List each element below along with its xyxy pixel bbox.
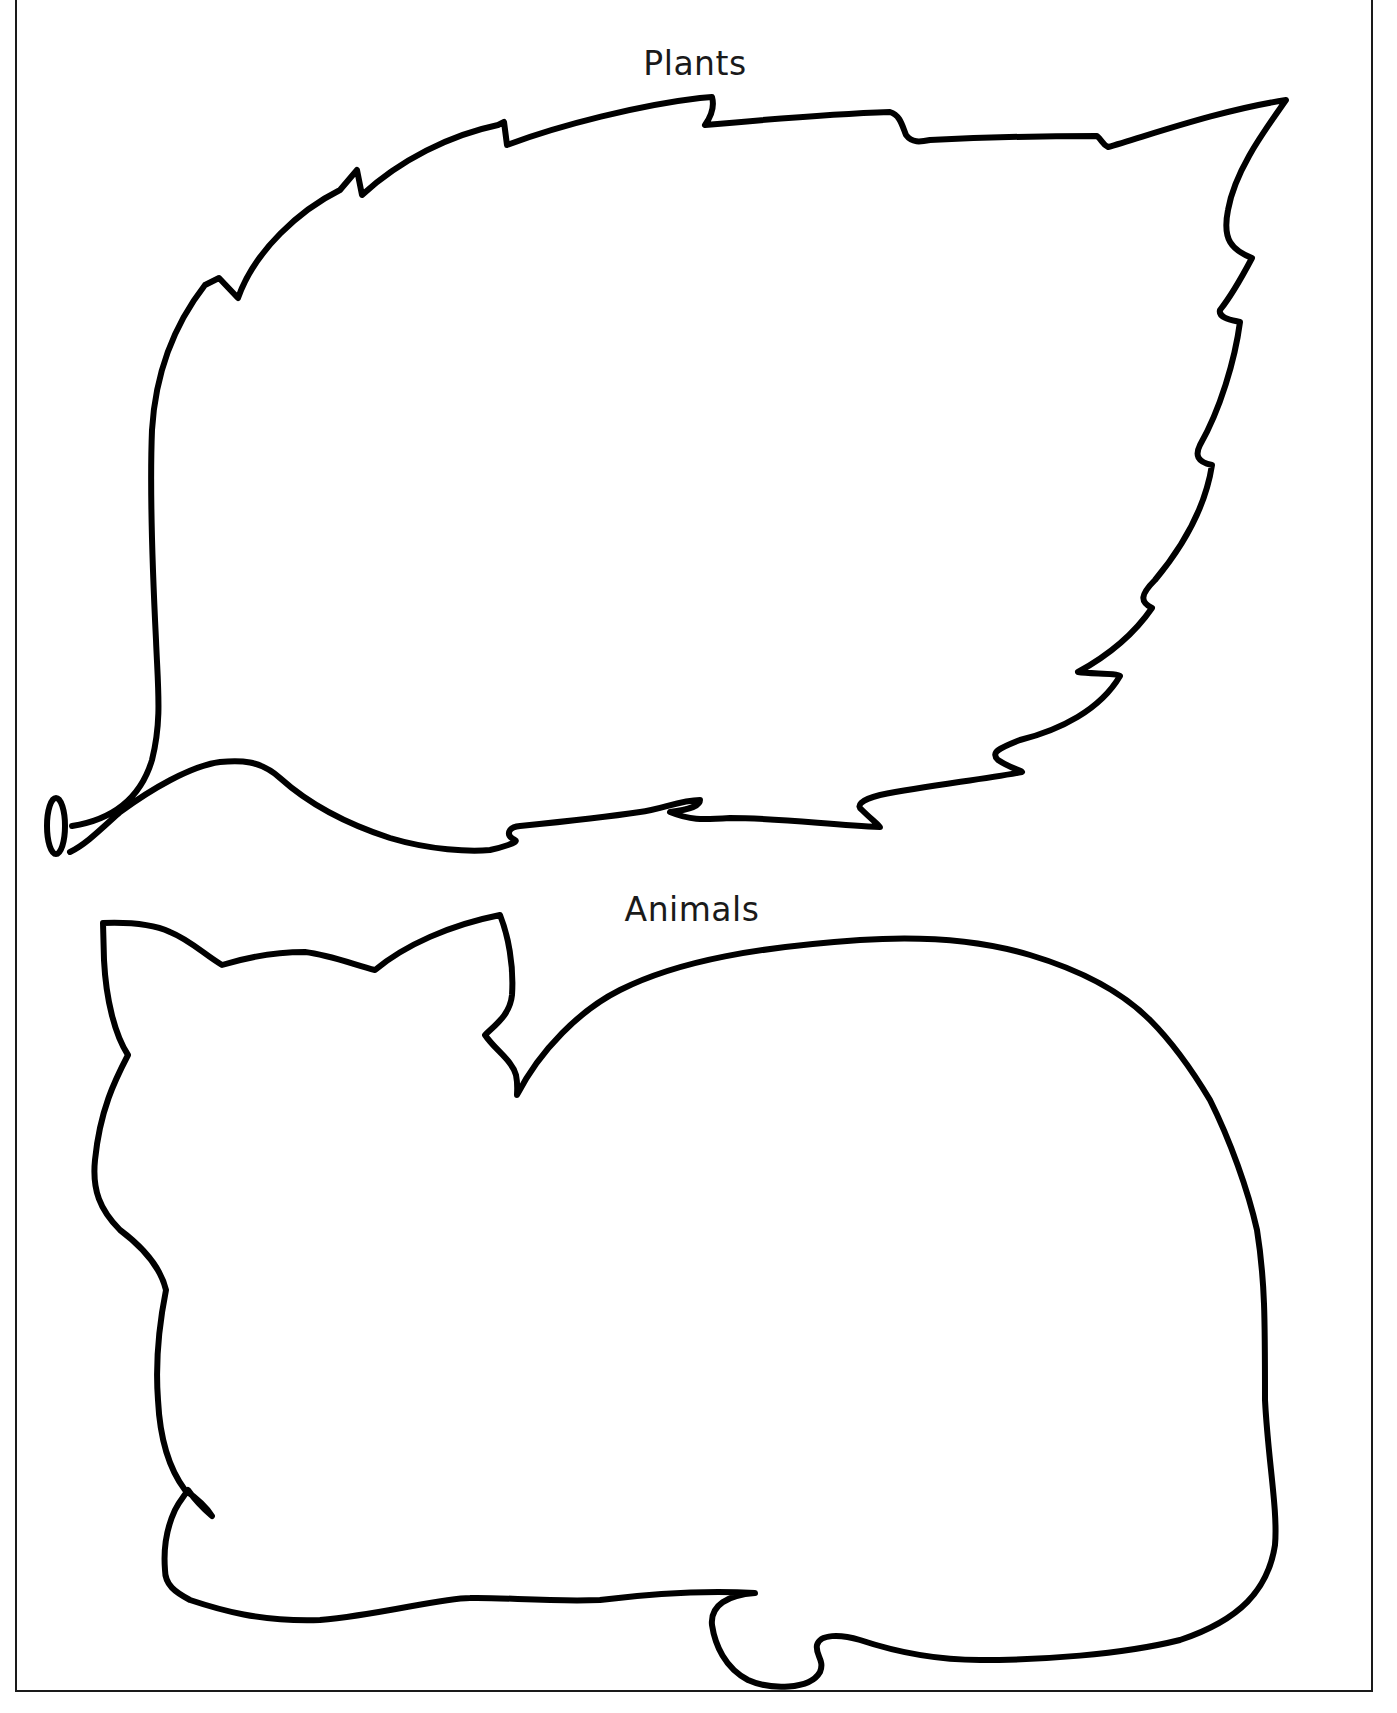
worksheet-drawing [0,0,1397,1713]
cat-outline-icon [94,915,1275,1687]
leaf-outline-icon [47,97,1286,854]
